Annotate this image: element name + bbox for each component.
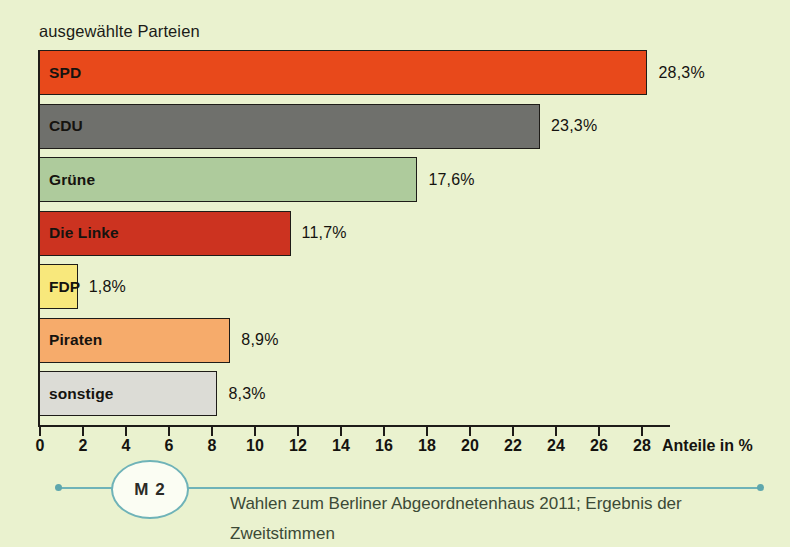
- bar-category-label: Die Linke: [40, 224, 119, 242]
- bar-piraten: Piraten: [39, 318, 230, 363]
- bar-value-label: 1,8%: [89, 264, 126, 309]
- x-tick: [297, 427, 299, 436]
- x-tick: [39, 427, 41, 436]
- x-tick-label: 12: [289, 437, 307, 455]
- bar-value-label: 8,9%: [241, 318, 278, 363]
- bar-category-label: CDU: [40, 117, 83, 135]
- bar-category-label: Piraten: [40, 331, 102, 349]
- bar-value-label: 23,3%: [551, 104, 597, 149]
- x-tick-label: 22: [504, 437, 522, 455]
- x-tick: [82, 427, 84, 436]
- x-tick-label: 26: [590, 437, 608, 455]
- x-tick: [469, 427, 471, 436]
- bar-value-label: 28,3%: [658, 50, 704, 95]
- bar-category-label: FDP: [40, 278, 80, 296]
- x-axis-label: Anteile in %: [662, 437, 753, 455]
- x-tick: [641, 427, 643, 436]
- x-tick-label: 14: [332, 437, 350, 455]
- bar-value-label: 11,7%: [302, 211, 347, 256]
- x-tick: [211, 427, 213, 436]
- x-tick-label: 2: [79, 437, 88, 455]
- x-tick-label: 20: [461, 437, 479, 455]
- bar-spd: SPD: [39, 50, 647, 95]
- bar-grüne: Grüne: [39, 157, 417, 202]
- bar-fdp: FDP: [39, 264, 78, 309]
- y-axis-line: [38, 50, 40, 427]
- figure-caption: Wahlen zum Berliner Abgeordnetenhaus 201…: [230, 489, 770, 547]
- x-tick-label: 8: [208, 437, 217, 455]
- x-tick: [555, 427, 557, 436]
- chart-page: ausgewählte Parteien SPD28,3%CDU23,3%Grü…: [0, 0, 790, 547]
- x-tick: [383, 427, 385, 436]
- bar-category-label: sonstige: [40, 385, 114, 403]
- x-tick: [340, 427, 342, 436]
- x-tick-label: 28: [633, 437, 651, 455]
- x-tick-label: 0: [36, 437, 45, 455]
- x-tick-label: 6: [165, 437, 174, 455]
- material-badge: M 2: [111, 460, 189, 519]
- bar-value-label: 8,3%: [228, 371, 265, 416]
- x-tick: [254, 427, 256, 436]
- x-tick-label: 16: [375, 437, 393, 455]
- x-tick: [426, 427, 428, 436]
- bar-die-linke: Die Linke: [39, 211, 291, 256]
- bar-value-label: 17,6%: [428, 157, 474, 202]
- x-tick-label: 10: [246, 437, 264, 455]
- x-tick: [125, 427, 127, 436]
- bar-category-label: Grüne: [40, 171, 95, 189]
- bar-category-label: SPD: [40, 64, 81, 82]
- x-tick-label: 24: [547, 437, 565, 455]
- x-tick-label: 4: [122, 437, 131, 455]
- x-tick-label: 18: [418, 437, 436, 455]
- bar-cdu: CDU: [39, 104, 540, 149]
- x-tick: [168, 427, 170, 436]
- x-tick: [512, 427, 514, 436]
- footer-dot-left-icon: [55, 484, 62, 491]
- plot-area: SPD28,3%CDU23,3%Grüne17,6%Die Linke11,7%…: [0, 50, 790, 425]
- bar-sonstige: sonstige: [39, 371, 217, 416]
- x-tick: [598, 427, 600, 436]
- chart-title: ausgewählte Parteien: [39, 22, 200, 41]
- x-axis-line: [39, 425, 670, 427]
